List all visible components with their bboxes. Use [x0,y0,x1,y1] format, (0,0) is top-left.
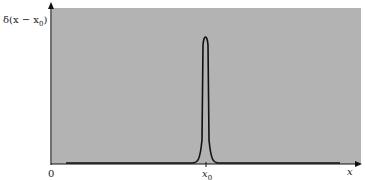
x-axis-label: x [347,166,353,177]
y-axis-label: δ(x − x0) [3,14,47,28]
origin-label: 0 [48,168,54,179]
y-axis-arrow-icon [48,2,54,9]
delta-plot [0,0,365,180]
plot-background [52,8,361,164]
x0-label: x0 [202,168,212,180]
